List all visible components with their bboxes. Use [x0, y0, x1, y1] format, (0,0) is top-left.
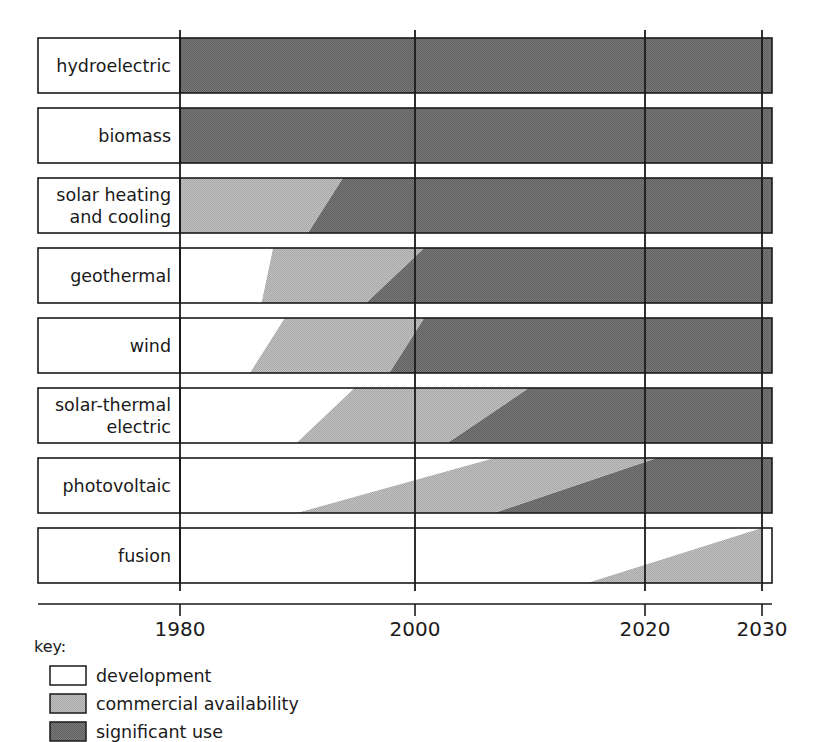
x-axis-tick-label: 2020: [620, 617, 671, 641]
row-label-text: biomass: [98, 126, 171, 146]
legend-swatch: [50, 666, 86, 685]
x-axis-group: 1980200020202030: [38, 604, 787, 641]
segment-development: [180, 248, 273, 303]
legend-title: key:: [34, 637, 66, 656]
legend-item-label: significant use: [96, 722, 223, 742]
x-axis-tick-label: 2000: [390, 617, 441, 641]
row-label-text: and cooling: [70, 207, 171, 227]
segment-significant-use: [180, 38, 772, 93]
row-label-text: geothermal: [70, 266, 171, 286]
row-label-text: hydroelectric: [56, 56, 171, 76]
row-label-text: electric: [106, 417, 171, 437]
row-label-text: solar heating: [56, 185, 171, 205]
x-axis-tick-label: 1980: [155, 617, 206, 641]
legend-item-label: development: [96, 666, 212, 686]
legend-swatch: [50, 694, 86, 713]
row-label-text: photovoltaic: [63, 476, 171, 496]
segment-significant-use: [366, 248, 772, 303]
segment-significant-use: [389, 318, 772, 373]
legend-swatch: [50, 722, 86, 741]
legend-group: key:developmentcommercial availabilitysi…: [34, 637, 299, 742]
segment-significant-use: [308, 178, 772, 233]
row-label-text: wind: [130, 336, 171, 356]
timeline-svg-canvas: 1980200020202030 hydroelectricbiomasssol…: [0, 0, 825, 742]
row-label-text: solar-thermal: [55, 395, 171, 415]
x-axis-tick-label: 2030: [737, 617, 788, 641]
legend-item-label: commercial availability: [96, 694, 299, 714]
timeline-chart: 1980200020202030 hydroelectricbiomasssol…: [0, 0, 825, 742]
timeline-rows-group: [38, 38, 772, 583]
row-labels-group: hydroelectricbiomasssolar heatingand coo…: [55, 56, 171, 566]
segment-significant-use: [180, 108, 772, 163]
row-label-text: fusion: [118, 546, 171, 566]
